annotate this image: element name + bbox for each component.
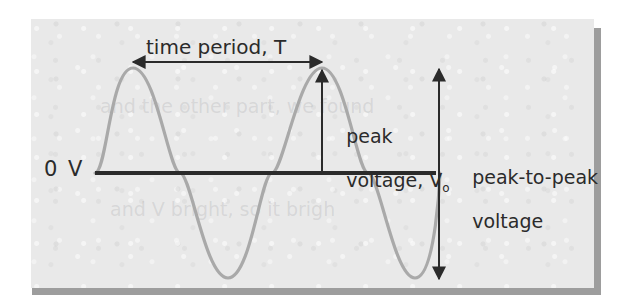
peak-voltage-label-line-1: peak — [346, 125, 392, 147]
peak-voltage-label: peak voltage, Vo — [322, 104, 450, 217]
peak-voltage-label-line-2: voltage, V — [346, 169, 442, 191]
zero-volt-label: 0 V — [44, 157, 84, 181]
waveform-figure: and the other part, we found and V brigh… — [0, 0, 630, 308]
peak-to-peak-label-line-1: peak-to-peak — [472, 166, 598, 188]
time-period-label: time period, T — [146, 36, 286, 59]
peak-to-peak-label: peak-to-peak voltage — [448, 145, 598, 254]
peak-to-peak-label-line-2: voltage — [472, 210, 543, 232]
